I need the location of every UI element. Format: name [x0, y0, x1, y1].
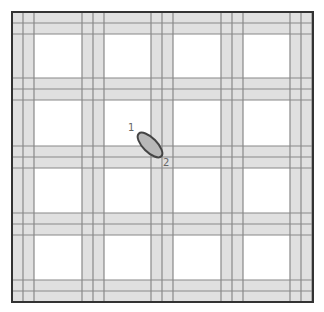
- label-1: 1: [128, 122, 134, 133]
- label-2: 2: [163, 157, 169, 168]
- grid-diagram: 1 2: [0, 0, 324, 312]
